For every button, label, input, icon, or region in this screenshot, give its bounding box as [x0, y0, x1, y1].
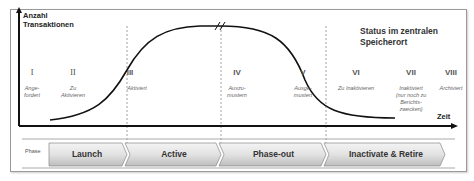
phase-row-label: Phase — [25, 148, 41, 154]
stage-text-2: Zu Aktivieren — [51, 85, 95, 99]
phase-phase-out: Phase-out — [222, 142, 325, 166]
stage-text-line: Inaktiviert — [389, 85, 433, 92]
stage-text-line: fordert — [10, 92, 54, 99]
phase-active: Active — [128, 142, 220, 166]
stage-numeral-5: V — [288, 68, 318, 77]
stage-text-line: Aktiviert — [115, 85, 159, 92]
stage-text-5: Ausge- mustert — [281, 85, 325, 99]
stage-text-8: Archiviert — [429, 85, 473, 92]
stage-text-7: Inaktiviert (nur noch zu Berichts- zweck… — [389, 85, 433, 113]
stage-text-line: Ausge- — [281, 85, 325, 92]
stage-text-1: Ange- fordert — [10, 85, 54, 99]
status-title: Status im zentralen Speicherort — [360, 26, 438, 48]
y-axis-label-line-1: Anzahl — [23, 11, 74, 20]
y-axis-label-line-2: Transaktionen — [23, 20, 74, 29]
stage-numeral-6: VI — [341, 68, 371, 77]
stage-numeral-3: III — [115, 68, 145, 77]
stage-text-line: (nur noch zu — [389, 92, 433, 99]
stage-text-6: Zu Inaktivieren — [329, 85, 383, 92]
status-title-line-2: Speicherort — [360, 37, 438, 48]
stage-text-line: Aktivieren — [51, 92, 95, 99]
stage-text-line: Zu Inaktivieren — [329, 85, 383, 92]
stage-text-line: Auszu- — [215, 85, 259, 92]
stage-text-line: Archiviert — [429, 85, 473, 92]
x-axis-label: Zeit — [437, 112, 450, 121]
stage-numeral-7: VII — [396, 68, 426, 77]
stage-text-3: Aktiviert — [115, 85, 159, 92]
phase-launch: Launch — [49, 142, 125, 166]
stage-text-line: mustern — [215, 92, 259, 99]
stage-text-line: Ange- — [10, 85, 54, 92]
y-axis-label: Anzahl Transaktionen — [23, 11, 74, 29]
stage-text-line: mustert — [281, 92, 325, 99]
stage-numeral-4: IV — [222, 68, 252, 77]
stage-numeral-1: I — [17, 68, 47, 77]
stage-numeral-2: II — [58, 68, 88, 77]
stage-text-line: zwecken) — [389, 106, 433, 113]
phase-inactivate-retire: Inactivate & Retire — [327, 142, 445, 166]
stage-text-4: Auszu- mustern — [215, 85, 259, 99]
stage-text-line: Zu — [51, 85, 95, 92]
status-title-line-1: Status im zentralen — [360, 26, 438, 37]
stage-text-line: Berichts- — [389, 99, 433, 106]
stage-numeral-8: VIII — [436, 68, 466, 77]
